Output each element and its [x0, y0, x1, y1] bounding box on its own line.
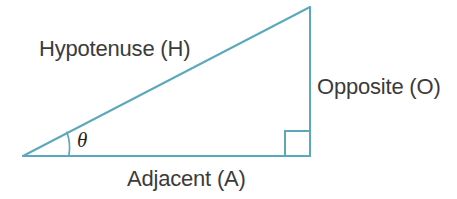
- triangle-diagram: Hypotenuse (H) Opposite (O) Adjacent (A)…: [0, 0, 457, 199]
- hypotenuse-line: [23, 7, 310, 156]
- adjacent-label: Adjacent (A): [127, 168, 246, 190]
- right-angle-marker-icon: [285, 131, 310, 156]
- angle-arc-icon: [67, 132, 70, 155]
- hypotenuse-label: Hypotenuse (H): [39, 38, 190, 60]
- opposite-label: Opposite (O): [317, 76, 441, 98]
- theta-angle-label: θ: [77, 130, 87, 151]
